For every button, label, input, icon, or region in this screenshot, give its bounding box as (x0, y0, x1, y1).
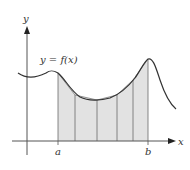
diagram-canvas: y x a b y = f(x) (0, 0, 190, 170)
curve-label: y = f(x) (39, 54, 78, 65)
x-axis-arrow-icon (168, 138, 176, 144)
x-axis-label: x (178, 136, 184, 147)
y-axis-label: y (22, 13, 29, 24)
a-label: a (55, 146, 61, 157)
trapezoid-rule-diagram: y x a b y = f(x) (0, 0, 190, 170)
b-label: b (145, 146, 151, 157)
y-axis-arrow-icon (24, 26, 30, 34)
